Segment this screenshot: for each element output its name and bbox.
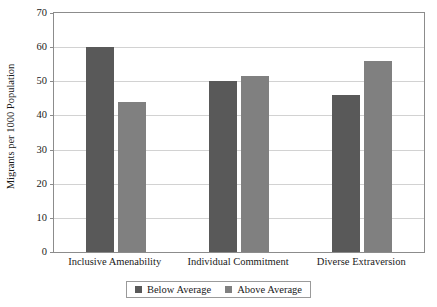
x-axis-tick-label: Individual Commitment	[187, 256, 288, 267]
y-axis-tick-label: 20	[37, 178, 48, 189]
y-axis-tick-label: 50	[37, 76, 48, 87]
bar	[332, 95, 360, 252]
bar	[364, 61, 392, 252]
y-axis-tick-label: 10	[37, 213, 48, 224]
y-axis-title: Migrants per 1000 Population	[0, 0, 22, 253]
bar	[209, 81, 237, 252]
legend-swatch-icon	[225, 286, 232, 293]
legend-item-label: Below Average	[147, 284, 211, 295]
x-axis-tick-label: Inclusive Amenability	[68, 256, 161, 267]
bar-chart: Migrants per 1000 Population 01020304050…	[0, 0, 437, 307]
legend-swatch-icon	[135, 286, 142, 293]
legend-item-label: Above Average	[237, 284, 302, 295]
x-axis-tick-label: Diverse Extraversion	[317, 256, 406, 267]
tick-mark	[50, 252, 54, 253]
plot-area: 010203040506070	[53, 12, 425, 253]
y-axis-tick-label: 70	[37, 8, 48, 19]
y-axis-tick-label: 30	[37, 144, 48, 155]
bar	[86, 47, 114, 252]
bars-layer	[54, 13, 424, 252]
y-axis-tick-label: 0	[42, 247, 47, 258]
legend-item[interactable]: Above Average	[225, 284, 302, 295]
legend-box: Below AverageAbove Average	[126, 281, 311, 298]
x-axis-labels: Inclusive AmenabilityIndividual Commitme…	[53, 256, 425, 274]
legend-item[interactable]: Below Average	[135, 284, 211, 295]
y-axis-tick-label: 60	[37, 42, 48, 53]
y-axis-title-text: Migrants per 1000 Population	[6, 64, 17, 190]
bar	[241, 76, 269, 252]
legend: Below AverageAbove Average	[0, 281, 437, 298]
y-axis-tick-label: 40	[37, 110, 48, 121]
bar	[118, 102, 146, 252]
